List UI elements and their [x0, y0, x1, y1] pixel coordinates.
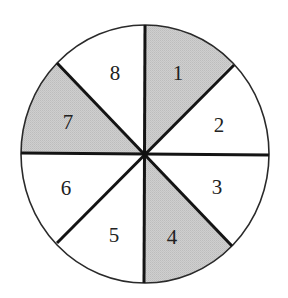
sector-label-6: 6: [61, 176, 72, 200]
sector-label-8: 8: [110, 61, 121, 85]
sector-label-1: 1: [173, 61, 184, 85]
sector-label-5: 5: [109, 223, 120, 247]
sector-label-3: 3: [212, 175, 223, 199]
center-hub: [142, 151, 148, 157]
sector-label-7: 7: [63, 110, 74, 134]
sector-label-2: 2: [214, 113, 225, 137]
spinner-diagram: 1 2 3 4 5 6 7 8: [0, 0, 288, 298]
sector-label-4: 4: [167, 225, 178, 249]
